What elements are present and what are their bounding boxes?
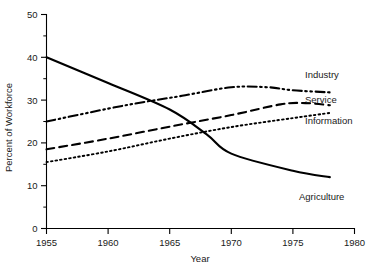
x-tick-label: 1960 — [98, 237, 119, 248]
x-tick-label: 1975 — [282, 237, 303, 248]
x-tick-label: 1970 — [221, 237, 242, 248]
x-tick-label: 1980 — [344, 237, 365, 248]
data-series-group — [47, 57, 330, 177]
chart-container: 01020304050 195519601965197019751980 Per… — [0, 0, 380, 269]
x-tick-label: 1955 — [36, 237, 57, 248]
y-tick-label: 30 — [27, 95, 38, 106]
y-axis-title: Percent of Workforce — [3, 83, 14, 172]
y-tick-label: 40 — [27, 52, 38, 63]
series-label-information: Information — [305, 115, 353, 126]
line-chart: 01020304050 195519601965197019751980 Per… — [0, 0, 380, 269]
y-tick-label: 20 — [27, 137, 38, 148]
x-axis-title: Year — [190, 253, 209, 264]
x-tick-label: 1965 — [159, 237, 180, 248]
series-annotations: IndustryServiceInformationAgriculture — [299, 69, 353, 202]
series-line-service — [47, 103, 330, 149]
series-line-industry — [47, 86, 330, 121]
series-label-agriculture: Agriculture — [299, 191, 344, 202]
series-label-industry: Industry — [305, 69, 339, 80]
series-label-service: Service — [305, 94, 337, 105]
y-tick-label: 0 — [32, 223, 37, 234]
y-tick-label: 50 — [27, 9, 38, 20]
x-axis-major-ticks — [47, 229, 355, 235]
y-tick-label: 10 — [27, 180, 38, 191]
series-line-agriculture — [47, 57, 330, 177]
x-axis-tick-labels: 195519601965197019751980 — [36, 237, 365, 248]
y-axis-tick-labels: 01020304050 — [27, 9, 38, 234]
